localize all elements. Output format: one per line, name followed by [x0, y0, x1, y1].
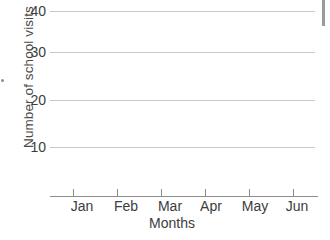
scan-artifact-right-edge: [322, 0, 325, 26]
x-tick-feb: [117, 189, 118, 196]
x-tick-may: [249, 189, 250, 196]
x-tick-label-jun: Jun: [272, 198, 322, 215]
scan-artifact-left-dot: [1, 79, 4, 82]
y-tick-label: 20: [20, 93, 46, 107]
x-tick-apr: [205, 189, 206, 196]
x-tick-label-feb: Feb: [101, 198, 151, 215]
gridline-20: [50, 100, 315, 101]
x-tick-mar: [161, 189, 162, 196]
x-tick-label-apr: Apr: [186, 198, 236, 215]
x-tick-jun: [293, 189, 294, 196]
gridline-40: [50, 11, 315, 12]
x-tick-label-jan: Jan: [57, 198, 107, 215]
gridline-30: [50, 52, 315, 53]
y-tick-label: 40: [20, 4, 46, 18]
x-axis-title: Months: [122, 215, 222, 231]
x-axis-line: [50, 196, 318, 197]
y-tick-label: 10: [20, 140, 46, 154]
plot-area: [50, 0, 315, 197]
y-axis-tick-labels: 40 30 20 10: [20, 0, 46, 240]
x-tick-jan: [73, 189, 74, 196]
chart-container: Number of school visits 40 30 20 10 Jan …: [0, 0, 330, 240]
y-tick-label: 30: [20, 45, 46, 59]
gridline-10: [50, 147, 315, 148]
